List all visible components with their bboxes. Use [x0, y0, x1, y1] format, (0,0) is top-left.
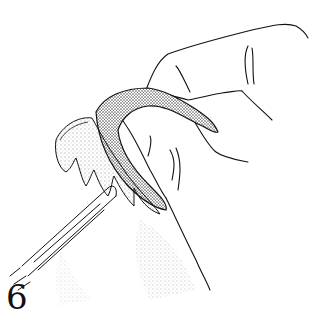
illustration-figure: 6 — [0, 0, 322, 328]
palm-shading — [56, 220, 196, 305]
hand-and-tissue-illustration — [0, 0, 322, 328]
figure-number: 6 — [6, 280, 28, 314]
tissue-specimen — [55, 88, 218, 214]
